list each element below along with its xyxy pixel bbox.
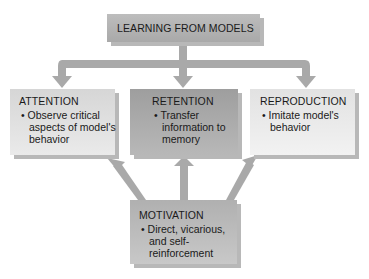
attention-box: ATTENTION • Observe critical aspects of … (10, 89, 115, 155)
motivation-bullet: • Direct, vicarious, and self-reinforcem… (139, 223, 244, 259)
retention-title: RETENTION (152, 95, 238, 107)
top-box-title: LEARNING FROM MODELS (117, 22, 260, 34)
reproduction-box: REPRODUCTION • Imitate model's behavior (250, 89, 355, 155)
retention-bullet: • Transfer information to memory (152, 109, 232, 145)
motivation-box: MOTIVATION • Direct, vicarious, and self… (130, 200, 237, 264)
retention-box: RETENTION • Transfer information to memo… (130, 89, 238, 155)
reproduction-title: REPRODUCTION (260, 95, 355, 107)
attention-title: ATTENTION (19, 95, 115, 107)
learning-from-models-box: LEARNING FROM MODELS (107, 14, 260, 42)
attention-bullet: • Observe critical aspects of model's be… (19, 109, 121, 145)
reproduction-bullet: • Imitate model's behavior (260, 109, 352, 133)
motivation-title: MOTIVATION (139, 209, 237, 221)
